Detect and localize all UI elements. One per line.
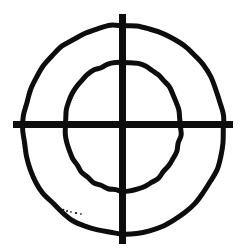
horizontal-crosshair — [13, 121, 233, 128]
crosshair-target-figure — [0, 0, 242, 251]
image-canvas: A black hand-drawn crosshair target: two… — [0, 0, 242, 251]
vertical-crosshair — [119, 14, 126, 244]
